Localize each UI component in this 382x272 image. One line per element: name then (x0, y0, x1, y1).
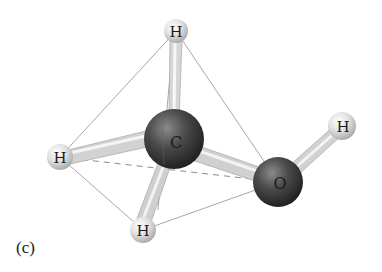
atom-oxygen-label: O (273, 174, 286, 193)
bond-o-h3-highlight (293, 130, 338, 170)
atom-h-left: H (47, 144, 73, 170)
atom-h-bottom: H (130, 217, 156, 243)
molecule-diagram: H H H C O H (0, 0, 382, 272)
atom-h-top: H (164, 19, 188, 43)
atom-carbon: C (144, 109, 204, 169)
edge-h2-h4 (60, 157, 143, 230)
atom-h-left-label: H (53, 149, 66, 167)
atom-carbon-label: C (170, 133, 182, 152)
atom-h-top-label: H (169, 23, 182, 41)
atom-h-right: H (328, 112, 356, 140)
bonds (68, 40, 343, 225)
atom-h-bottom-label: H (136, 222, 149, 240)
figure-label: (c) (16, 238, 35, 258)
bond-c-h1-highlight (174, 42, 175, 118)
atom-h-right-label: H (336, 118, 349, 136)
atom-oxygen: O (253, 157, 303, 207)
